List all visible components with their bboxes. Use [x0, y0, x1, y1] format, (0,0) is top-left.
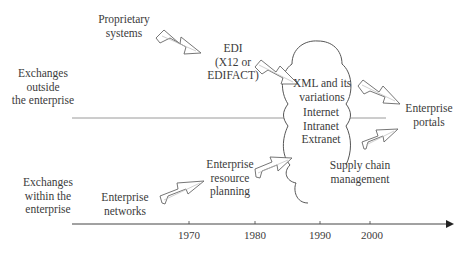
zone-label-within: Exchanges within the enterprise	[22, 176, 74, 217]
arrow-supply-chain-to-portals	[362, 129, 398, 149]
portals-line2: portals	[400, 116, 458, 130]
arrow-xml-to-portals	[358, 80, 400, 104]
tick-label-2000: 2000	[361, 229, 383, 241]
node-edi: EDI (X12 or EDIFACT)	[200, 42, 266, 83]
supply-chain-line1: Supply chain	[327, 159, 393, 173]
timeline-arrowhead	[446, 220, 454, 228]
node-supply-chain-management: Supply chain management	[327, 159, 393, 186]
xml-line1: XML and its	[293, 77, 351, 91]
proprietary-line1: Proprietary	[92, 13, 156, 27]
zone-within-line3: enterprise	[22, 203, 74, 217]
tick-label-1980: 1980	[244, 229, 266, 241]
arrow-proprietary-to-edi	[156, 30, 201, 54]
supply-chain-line2: management	[327, 173, 393, 187]
edi-line3: EDIFACT)	[200, 69, 266, 83]
node-internet-intranet-extranet: Internet Intranet Extranet	[294, 106, 348, 147]
arrow-networks-to-erp	[160, 181, 204, 204]
node-enterprise-networks: Enterprise networks	[95, 191, 155, 218]
xml-line2: variations	[293, 91, 351, 105]
erp-line3: planning	[200, 185, 260, 199]
zone-label-outside: Exchanges outside the enterprise	[8, 67, 78, 108]
networks-line3: Extranet	[294, 133, 348, 147]
zone-within-line2: within the	[22, 190, 74, 204]
edi-line1: EDI	[200, 42, 266, 56]
node-enterprise-portals: Enterprise portals	[400, 102, 458, 129]
networks-line2: Intranet	[294, 120, 348, 134]
zone-outside-line2: outside	[8, 81, 78, 95]
networks-line1: Internet	[294, 106, 348, 120]
node-xml: XML and its variations	[293, 77, 351, 104]
erp-line2: resource	[200, 172, 260, 186]
tick-label-1990: 1990	[309, 229, 331, 241]
tick-label-1970: 1970	[178, 229, 200, 241]
enterprise-networks-line2: networks	[95, 205, 155, 219]
zone-within-line1: Exchanges	[22, 176, 74, 190]
node-proprietary-systems: Proprietary systems	[92, 13, 156, 40]
erp-line1: Enterprise	[200, 158, 260, 172]
zone-outside-line1: Exchanges	[8, 67, 78, 81]
proprietary-line2: systems	[92, 27, 156, 41]
node-enterprise-resource-planning: Enterprise resource planning	[200, 158, 260, 199]
portals-line1: Enterprise	[400, 102, 458, 116]
edi-line2: (X12 or	[200, 56, 266, 70]
zone-outside-line3: the enterprise	[8, 94, 78, 108]
enterprise-networks-line1: Enterprise	[95, 191, 155, 205]
